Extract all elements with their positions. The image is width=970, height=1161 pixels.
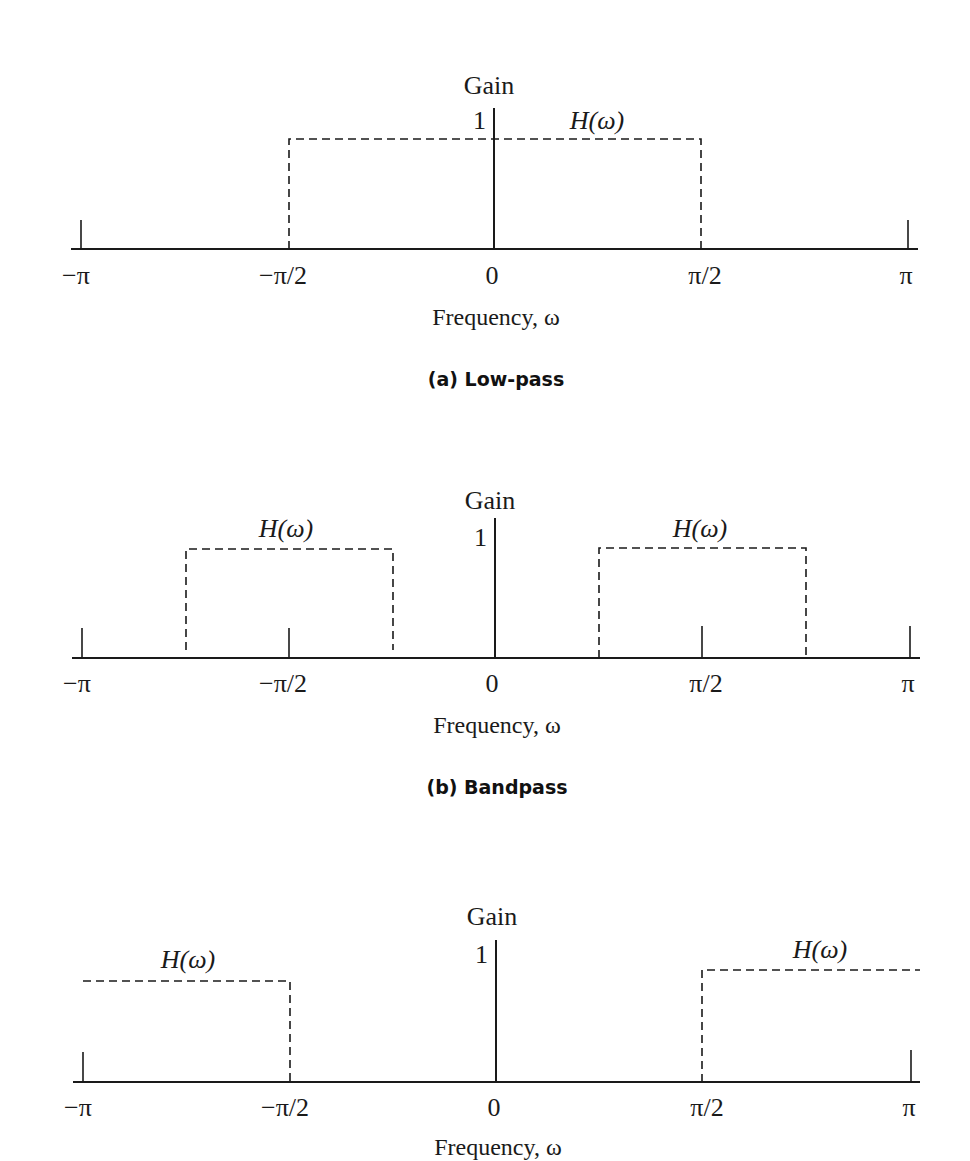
- panel-a-lowpass: Gain 1 H(ω) −π −π/2 0 π/2 π Frequency, ω…: [62, 71, 918, 390]
- xlabel: Frequency, ω: [433, 712, 561, 738]
- tick-label-zero: 0: [488, 1093, 501, 1122]
- tick-label-zero: 0: [486, 261, 499, 290]
- tick-label-pi-half: π/2: [689, 669, 722, 698]
- tick-label-pi: π: [902, 1093, 915, 1122]
- tick-label-pi-half: π/2: [690, 1093, 723, 1122]
- tick-label-pi-half: π/2: [688, 261, 721, 290]
- gain-value-label: 1: [473, 106, 486, 135]
- tick-label-zero: 0: [486, 669, 499, 698]
- tick-label-minus-pi-half: −π/2: [261, 1093, 309, 1122]
- xlabel: Frequency, ω: [434, 1134, 562, 1160]
- gain-value-label: 1: [474, 523, 487, 552]
- tick-label-minus-pi-half: −π/2: [259, 669, 307, 698]
- tick-label-pi: π: [899, 261, 912, 290]
- response-label-negative: H(ω): [258, 514, 313, 543]
- tick-label-pi: π: [901, 669, 914, 698]
- gain-value-label: 1: [475, 940, 488, 969]
- panel-caption: (a) Low-pass: [428, 368, 564, 390]
- panel-c-highpass: Gain 1 H(ω) H(ω) −π −π/2 0 π/2 π Frequen…: [64, 902, 920, 1160]
- tick-label-minus-pi-half: −π/2: [259, 261, 307, 290]
- response-label-negative: H(ω): [160, 945, 215, 974]
- response-label-positive: H(ω): [792, 935, 847, 964]
- tick-label-minus-pi: −π: [64, 1093, 92, 1122]
- panel-caption: (b) Bandpass: [426, 776, 567, 798]
- gain-label: Gain: [464, 71, 515, 100]
- panel-b-bandpass: Gain 1 H(ω) H(ω) −π −π/2 0 π/2 π Frequen…: [63, 486, 920, 798]
- highpass-negative-band: [83, 981, 290, 1082]
- filter-diagram: Gain 1 H(ω) −π −π/2 0 π/2 π Frequency, ω…: [0, 0, 970, 1161]
- highpass-positive-band: [702, 970, 920, 1082]
- xlabel: Frequency, ω: [432, 304, 560, 330]
- response-label: H(ω): [569, 106, 624, 135]
- gain-label: Gain: [465, 486, 516, 515]
- gain-label: Gain: [467, 902, 518, 931]
- response-label-positive: H(ω): [672, 514, 727, 543]
- tick-label-minus-pi: −π: [62, 261, 90, 290]
- tick-label-minus-pi: −π: [63, 669, 91, 698]
